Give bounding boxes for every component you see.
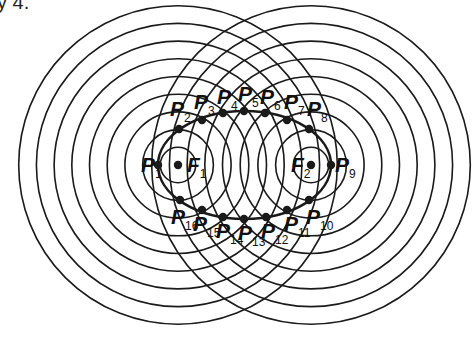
dot-p10 xyxy=(305,196,313,204)
label-p4: P4 xyxy=(217,86,238,112)
label-p3: P3 xyxy=(194,91,215,117)
diagram-canvas xyxy=(0,0,474,340)
dot-p2 xyxy=(175,125,183,133)
dot-p3 xyxy=(198,116,206,124)
label-p2: P2 xyxy=(170,98,191,124)
label-p1: P1 xyxy=(141,154,162,180)
dot-p16 xyxy=(176,196,184,204)
dot-p7 xyxy=(283,116,291,124)
label-f2: F2 xyxy=(291,154,311,180)
ellipse-construction-diagram: y 4. P1P2P3P4P5P6P7P8P9P10P11P12P13P14P1… xyxy=(0,0,474,340)
dot-p9 xyxy=(327,161,335,169)
label-p9: P9 xyxy=(335,154,356,180)
label-p5: P5 xyxy=(238,83,259,109)
dot-p8 xyxy=(305,125,313,133)
label-p8: P8 xyxy=(307,98,328,124)
dot-f1 xyxy=(174,161,182,169)
label-p16: P16 xyxy=(171,206,198,232)
label-p6: P6 xyxy=(260,86,281,112)
label-p7: P7 xyxy=(284,91,305,117)
label-f1: F1 xyxy=(187,154,207,180)
